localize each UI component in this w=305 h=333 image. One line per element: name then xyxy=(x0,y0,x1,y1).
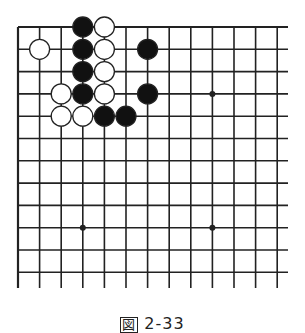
black-stone xyxy=(73,84,93,104)
black-stone xyxy=(73,39,93,59)
black-stone xyxy=(73,17,93,37)
white-stone xyxy=(94,17,114,37)
black-stone xyxy=(138,84,158,104)
white-stone xyxy=(51,106,71,126)
black-stone xyxy=(138,39,158,59)
white-stone xyxy=(94,84,114,104)
black-stone xyxy=(94,106,114,126)
grid-lines xyxy=(18,27,288,288)
white-stone xyxy=(51,84,71,104)
figure-caption: 図2-33 xyxy=(0,314,305,333)
go-board xyxy=(0,0,305,300)
star-point xyxy=(209,225,215,231)
white-stone xyxy=(30,39,50,59)
black-stone xyxy=(73,62,93,82)
black-stone xyxy=(116,106,136,126)
white-stone xyxy=(94,62,114,82)
star-point xyxy=(80,225,86,231)
star-point xyxy=(209,91,215,97)
figure-prefix: 図 xyxy=(120,317,138,333)
white-stone xyxy=(73,106,93,126)
figure-label: 2-33 xyxy=(144,314,184,333)
white-stone xyxy=(94,39,114,59)
